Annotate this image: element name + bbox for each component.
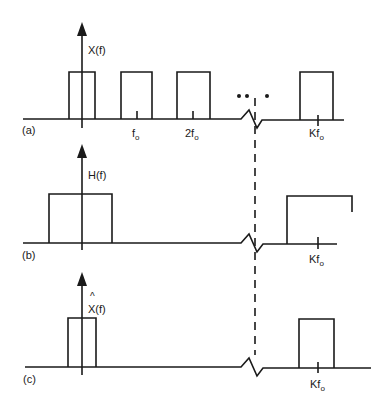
tick-label-sub: o <box>194 133 198 142</box>
arrow-up-icon <box>77 144 87 158</box>
panel-b-filter-passband <box>49 194 112 243</box>
panel-b-frequency-axis <box>23 234 337 252</box>
tick-label-base: 2f <box>185 127 194 139</box>
tick-label-sub: o <box>135 133 139 142</box>
panel-b-function-label: H(f) <box>88 170 106 181</box>
panel-a-label: (a) <box>22 125 35 136</box>
spectrum-diagram <box>0 0 385 409</box>
tick-label-base: Kf <box>309 127 319 139</box>
panel-a-pulse-k <box>300 72 333 120</box>
tick-label-sub: o <box>319 259 323 268</box>
panel-a-function-label: X(f) <box>88 45 106 56</box>
panel-b-graphic <box>23 152 352 252</box>
tick-label-base: Kf <box>310 378 320 390</box>
panel-c-pulse-k <box>299 319 334 368</box>
tick-label-sub: o <box>319 133 323 142</box>
tick-label-kf0-a: Kfo <box>309 128 324 139</box>
panel-c-graphic <box>25 280 371 376</box>
panel-c-frequency-axis <box>25 358 371 376</box>
panel-c-hat-symbol: ^ <box>90 292 95 302</box>
panel-c-label: (c) <box>23 374 36 385</box>
panel-b-filter-high-band <box>287 196 352 244</box>
panel-c-function-label: X(f) <box>88 304 106 315</box>
arrow-up-icon <box>77 272 87 286</box>
tick-label-sub: o <box>320 384 324 393</box>
ellipsis-dot <box>237 94 241 98</box>
panel-b-label: (b) <box>22 250 35 261</box>
tick-label-2f0: 2fo <box>185 128 199 139</box>
panel-a-frequency-axis <box>23 110 344 128</box>
tick-label-kf0-c: Kfo <box>310 379 325 390</box>
tick-label-kf0-b: Kfo <box>309 254 324 265</box>
ellipsis-dot <box>245 94 249 98</box>
tick-label-base: Kf <box>309 253 319 265</box>
tick-label-f0: fo <box>132 128 140 139</box>
ellipsis-dot <box>265 94 269 98</box>
arrow-up-icon <box>77 22 87 36</box>
panel-a-graphic <box>23 30 344 128</box>
